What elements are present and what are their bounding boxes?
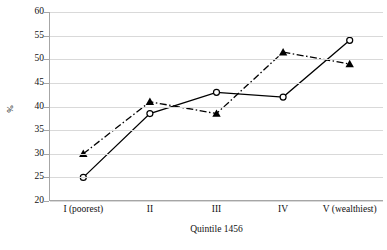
- y-axis-tick-labels: 202530354045505560: [14, 0, 44, 250]
- gridline: [50, 130, 383, 131]
- y-axis-tick-mark: [44, 12, 49, 13]
- gridline: [50, 59, 383, 60]
- y-axis-tick-mark: [44, 177, 49, 178]
- x-axis-tick-label: V (wealthiest): [323, 204, 377, 214]
- gridline: [50, 83, 383, 84]
- x-axis-tick-label: I (poorest): [63, 204, 103, 214]
- gridline: [50, 177, 383, 178]
- data-point-marker: [146, 98, 154, 105]
- y-axis-tick-mark: [44, 201, 49, 202]
- y-axis-tick-label: 25: [14, 172, 44, 182]
- y-axis-tick-label: 40: [14, 102, 44, 112]
- data-point-marker: [214, 89, 220, 95]
- chart-container: % 202530354045505560 I (poorest)IIIIIIVV…: [0, 0, 387, 250]
- gridline: [50, 12, 383, 13]
- y-axis-tick-mark: [44, 107, 49, 108]
- gridline: [50, 107, 383, 108]
- y-axis-tick-mark: [44, 59, 49, 60]
- y-axis-tick-label: 55: [14, 31, 44, 41]
- series-line: [83, 40, 349, 177]
- y-axis-tick-label: 45: [14, 78, 44, 88]
- y-axis-tick-label: 20: [14, 196, 44, 206]
- gridline: [50, 201, 383, 202]
- gridline: [50, 154, 383, 155]
- x-axis-tick-label: III: [212, 204, 222, 214]
- x-axis-title: Quintile 1456: [50, 224, 383, 234]
- data-point-marker: [279, 48, 287, 55]
- y-axis-tick-mark: [44, 130, 49, 131]
- y-axis-tick-mark: [44, 154, 49, 155]
- gridline: [50, 36, 383, 37]
- y-axis-tick-label: 35: [14, 125, 44, 135]
- y-axis-tick-label: 50: [14, 54, 44, 64]
- x-axis-tick-label: II: [147, 204, 153, 214]
- plot-area: [50, 12, 383, 201]
- y-axis-tick-mark: [44, 36, 49, 37]
- data-point-marker: [347, 37, 353, 43]
- x-axis-tick-label: IV: [278, 204, 288, 214]
- y-axis-tick-label: 60: [14, 7, 44, 17]
- data-point-marker: [147, 111, 153, 117]
- y-axis-tick-mark: [44, 83, 49, 84]
- x-axis-tick-labels: I (poorest)IIIIIIVV (wealthiest): [50, 204, 383, 220]
- data-point-marker: [280, 94, 286, 100]
- y-axis-tick-label: 30: [14, 149, 44, 159]
